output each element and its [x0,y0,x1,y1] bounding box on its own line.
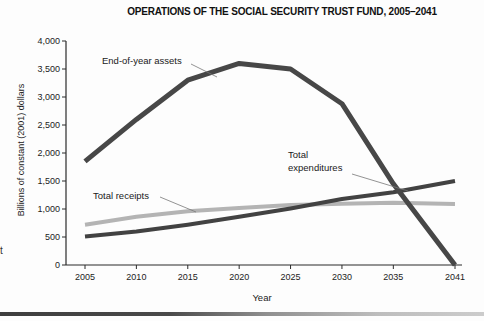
x-tick-label: 2010 [126,272,146,282]
x-axis-title: Year [232,292,292,303]
y-tick-label: 3,500 [37,64,60,74]
y-tick-label: 1,000 [37,204,60,214]
leader-total-expenditures [352,174,408,191]
page-bottom-rule [0,312,484,316]
x-tick-label: 2025 [281,272,301,282]
annotation-total-receipts: Total receipts [93,190,149,201]
y-tick-label: 3,000 [37,92,60,102]
y-tick-label: 500 [45,232,60,242]
y-tick-label: 4,000 [37,36,60,46]
y-tick-label: 2,500 [37,120,60,130]
page-edge-text-artifact: t [0,245,3,256]
leader-total-receipts [160,197,196,212]
annotation-end-of-year-assets: End-of-year assets [102,55,182,66]
y-tick-label: 0 [55,260,60,270]
x-tick-label: 2015 [178,272,198,282]
x-tick-label: 2041 [445,272,465,282]
x-tick-label: 2020 [229,272,249,282]
annotation-total-expenditures: Total expenditures [288,148,350,174]
x-tick-label: 2030 [332,272,352,282]
x-tick-label: 2035 [383,272,403,282]
y-tick-label: 1,500 [37,176,60,186]
x-tick-label: 2005 [75,272,95,282]
plot-area: 05001,0001,5002,0002,5003,0003,5004,0002… [0,0,484,321]
chart-page: OPERATIONS OF THE SOCIAL SECURITY TRUST … [0,0,484,321]
y-tick-label: 2,000 [37,148,60,158]
series-line-end-of-year-assets [85,63,455,265]
